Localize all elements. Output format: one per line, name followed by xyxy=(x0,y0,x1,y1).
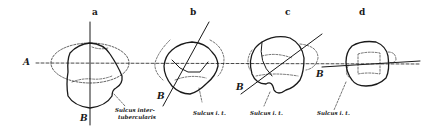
panel-label-b: b xyxy=(190,7,196,17)
axis-label-b-panel-d: B xyxy=(316,69,324,79)
axis-label-a: A xyxy=(23,57,30,67)
panel-label-a: a xyxy=(92,7,98,17)
panel-c-drawing xyxy=(241,34,322,106)
panel-b-drawing xyxy=(155,22,224,106)
panel-d-drawing xyxy=(322,42,420,111)
panel-label-d: d xyxy=(359,7,365,17)
panel-label-c: c xyxy=(285,7,290,17)
axis-label-b-panel-b: B xyxy=(157,91,165,101)
axis-label-b-panel-a: B xyxy=(80,113,88,123)
annotation-panel-d: Sulcus i. t. xyxy=(317,110,350,117)
axis-label-b-panel-c: B xyxy=(236,82,244,92)
axis-a-line xyxy=(36,63,420,64)
annotation-panel-b: Sulcus i. t. xyxy=(193,110,226,117)
annotation-panel-c: Sulcus i. t. xyxy=(250,110,283,117)
annotation-panel-a-line1: Sulcus inter- xyxy=(115,107,156,114)
annotation-panel-a-line2: tubercularis xyxy=(115,114,156,121)
annotation-panel-a: Sulcus inter- tubercularis xyxy=(115,107,156,120)
